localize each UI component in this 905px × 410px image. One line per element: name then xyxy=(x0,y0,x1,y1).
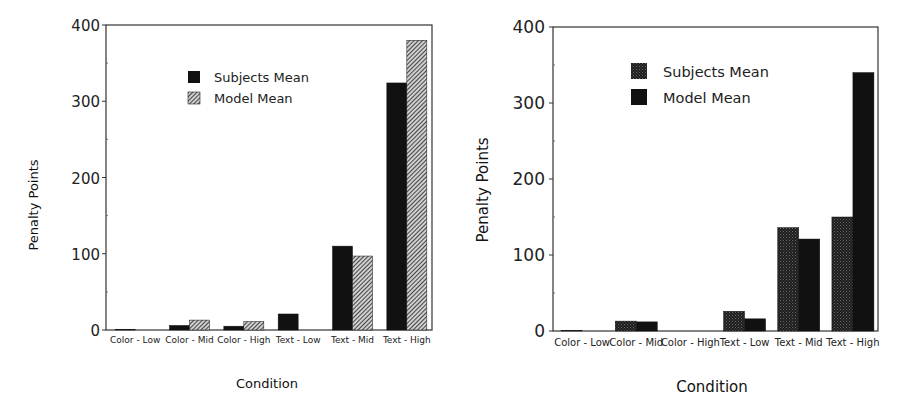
legend-swatch-subjects xyxy=(188,71,200,83)
y-axis-ticks: 0100200300400 xyxy=(71,17,108,340)
y-tick-label: 0 xyxy=(90,322,100,340)
bar-subjects-mean xyxy=(561,330,582,331)
y-tick-label: 400 xyxy=(513,17,545,37)
x-axis-categories: Color - LowColor - MidColor - HighText -… xyxy=(110,335,431,345)
x-category-label: Text - High xyxy=(825,337,879,348)
x-category-label: Color - Low xyxy=(554,337,610,348)
x-category-label: Color - High xyxy=(217,335,270,345)
bar-model-mean xyxy=(745,319,766,331)
x-category-label: Text - Low xyxy=(719,337,770,348)
x-axis-title: Condition xyxy=(236,376,298,391)
legend-swatch-model xyxy=(188,92,200,104)
bar-model-mean xyxy=(636,322,657,331)
bar-subjects-mean xyxy=(387,83,407,330)
y-tick-label: 200 xyxy=(513,169,545,189)
x-category-label: Color - Mid xyxy=(165,335,213,345)
bar-model-mean xyxy=(353,256,373,330)
bar-subjects-mean xyxy=(333,246,353,330)
y-tick-label: 400 xyxy=(71,17,100,35)
y-axis-title: Penalty Points xyxy=(474,137,492,242)
legend-swatch-subjects xyxy=(631,63,647,79)
y-tick-label: 100 xyxy=(513,245,545,265)
bar-subjects-mean xyxy=(170,325,190,330)
legend-swatch-model xyxy=(631,89,647,105)
bar-model-mean xyxy=(799,239,820,331)
y-tick-label: 300 xyxy=(71,93,100,111)
bar-subjects-mean xyxy=(832,217,853,331)
y-tick-label: 0 xyxy=(534,321,545,341)
y-axis-title: Penalty Points xyxy=(26,159,41,250)
x-category-label: Text - Low xyxy=(275,335,321,345)
x-category-label: Text - Mid xyxy=(774,337,823,348)
y-axis-ticks: 0100200300400 xyxy=(513,17,555,341)
figure-canvas: 0100200300400 Color - LowColor - MidColo… xyxy=(0,0,905,410)
x-category-label: Color - High xyxy=(661,337,720,348)
bar-model-mean xyxy=(244,322,264,330)
bar-subjects-mean xyxy=(224,326,244,330)
legend: Subjects Mean Model Mean xyxy=(631,63,769,106)
x-category-label: Text - High xyxy=(382,335,431,345)
legend: Subjects Mean Model Mean xyxy=(188,70,309,106)
bar-model-mean xyxy=(407,40,427,330)
bar-subjects-mean xyxy=(115,329,135,330)
left-bar-chart: 0100200300400 Color - LowColor - MidColo… xyxy=(26,17,432,391)
y-tick-label: 200 xyxy=(71,170,100,188)
y-tick-label: 300 xyxy=(513,93,545,113)
bar-subjects-mean xyxy=(724,311,745,331)
x-category-label: Color - Mid xyxy=(609,337,663,348)
bar-subjects-mean xyxy=(778,228,799,331)
bar-model-mean xyxy=(853,73,874,331)
x-axis-title: Condition xyxy=(676,378,748,396)
y-tick-label: 100 xyxy=(71,246,100,264)
right-bar-chart: 0100200300400 Color - LowColor - MidColo… xyxy=(474,17,880,396)
x-category-label: Text - Mid xyxy=(330,335,374,345)
legend-label-model: Model Mean xyxy=(663,90,751,106)
legend-label-model: Model Mean xyxy=(214,91,293,106)
legend-label-subjects: Subjects Mean xyxy=(214,70,309,85)
x-axis-categories: Color - LowColor - MidColor - HighText -… xyxy=(554,337,879,348)
bars xyxy=(561,73,874,331)
bar-subjects-mean xyxy=(278,314,298,330)
bar-subjects-mean xyxy=(615,321,636,331)
bar-model-mean xyxy=(190,320,210,330)
legend-label-subjects: Subjects Mean xyxy=(663,64,769,80)
x-category-label: Color - Low xyxy=(110,335,160,345)
